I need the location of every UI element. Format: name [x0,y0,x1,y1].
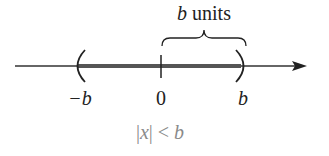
brace-label: b units [177,3,231,23]
tick-label-b: b [238,88,248,108]
caption-rhs: b [174,121,184,143]
number-line-diagram: b units −b 0 b |x| < b [0,0,329,156]
tick-label-zero: 0 [156,88,166,108]
brace-label-var: b [177,2,187,24]
brace-label-text: units [187,2,231,24]
brace [162,30,246,46]
caption-abs-right-lt: | < [149,121,174,143]
caption-var: x [140,121,149,143]
tick-label-neg-b: −b [68,88,92,108]
inequality-caption: |x| < b [136,122,184,142]
